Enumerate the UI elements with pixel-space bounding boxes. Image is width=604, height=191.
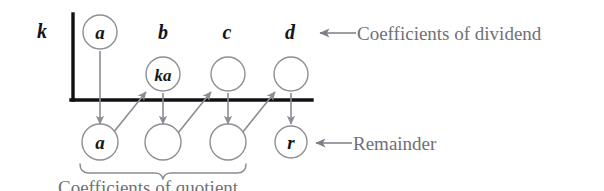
quotient-annotation-label: Coefficients of quotient xyxy=(58,177,239,191)
remainder-annotation-label: Remainder xyxy=(353,133,437,154)
dividend-annotation-label: Coefficients of dividend xyxy=(357,23,542,44)
synthetic-division-figure: k a b c d ka a r xyxy=(0,0,604,191)
divisor-label: k xyxy=(37,20,47,42)
middle-cell-circle-2 xyxy=(211,57,245,91)
synthetic-division-diagram: k a b c d ka a r xyxy=(0,0,604,191)
bottom-cell-label-a: a xyxy=(95,132,105,153)
top-cell-label-b: b xyxy=(158,21,168,43)
diagonal-arrow-1 xyxy=(113,92,146,133)
bottom-cell-circle-3 xyxy=(210,124,246,160)
diagonal-arrow-2 xyxy=(178,92,211,133)
top-cell-label-c: c xyxy=(223,21,232,43)
top-cell-label-d: d xyxy=(285,21,296,43)
bottom-cell-label-r: r xyxy=(287,132,295,153)
top-cell-label-a: a xyxy=(95,22,105,43)
middle-cell-label-ka: ka xyxy=(155,66,173,85)
bottom-cell-circle-2 xyxy=(145,124,181,160)
diagonal-arrow-3 xyxy=(242,92,275,133)
middle-cell-circle-3 xyxy=(274,57,308,91)
